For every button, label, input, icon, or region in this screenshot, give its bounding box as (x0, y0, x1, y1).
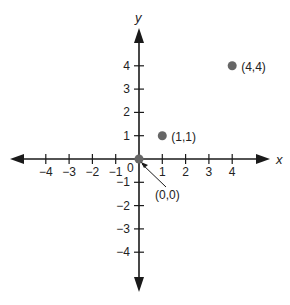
x-axis-left-arrow-icon (10, 154, 24, 164)
y-tick-label: −1 (116, 175, 130, 189)
x-tick-label: 3 (206, 165, 213, 179)
x-tick-label: −3 (62, 165, 76, 179)
point-label: (4,4) (241, 60, 266, 74)
y-tick-label: 3 (123, 82, 130, 96)
plot-svg: x y −4−3−2−11234 −4−3−2−11234 0 (0,0)(1,… (0, 0, 290, 305)
origin-pointer-arrow-icon (141, 162, 148, 168)
y-tick-label: 4 (123, 59, 130, 73)
x-tick-label: 2 (182, 165, 189, 179)
y-tick-label: 2 (123, 105, 130, 119)
x-tick-label: 1 (159, 165, 166, 179)
points: (0,0)(1,1)(4,4) (135, 60, 266, 202)
y-axis-up-arrow-icon (134, 28, 144, 43)
x-tick-label: −4 (39, 165, 53, 179)
y-axis-down-arrow-icon (134, 277, 144, 292)
point-label: (0,0) (155, 188, 180, 202)
x-tick-label: −2 (86, 165, 100, 179)
y-tick-label: −2 (116, 199, 130, 213)
x-axis-label: x (275, 152, 283, 167)
data-point (135, 155, 144, 164)
y-tick-label: −3 (116, 222, 130, 236)
data-point (228, 61, 237, 70)
x-tick-label: 4 (229, 165, 236, 179)
data-point (158, 131, 167, 140)
coordinate-plane: x y −4−3−2−11234 −4−3−2−11234 0 (0,0)(1,… (0, 0, 290, 305)
y-tick-label: −4 (116, 245, 130, 259)
y-tick-label: 1 (123, 129, 130, 143)
y-axis: y (134, 10, 144, 292)
x-axis-right-arrow-icon (256, 154, 270, 164)
origin-label: 0 (127, 161, 134, 175)
y-axis-label: y (134, 10, 143, 25)
point-label: (1,1) (171, 130, 196, 144)
